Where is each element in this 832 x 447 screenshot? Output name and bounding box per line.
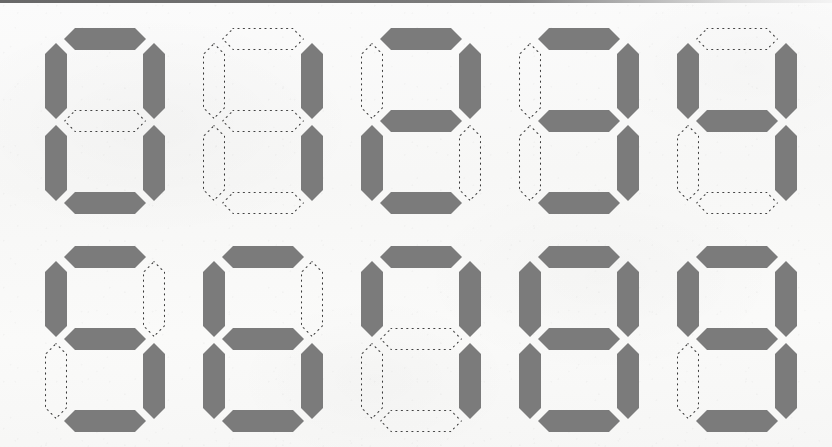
- digit-1-segment-a-off: [222, 28, 304, 50]
- digit-1-segment-g-off: [222, 110, 304, 132]
- digit-8-segment-e-on: [519, 343, 541, 419]
- digit-6-segment-d-on: [222, 410, 304, 432]
- digit-1-segment-b-on: [301, 43, 323, 119]
- digit-9-segment-a-on: [696, 246, 778, 268]
- digit-1-segment-f-off: [203, 43, 225, 119]
- digit-1-segment-e-off: [203, 125, 225, 201]
- digit-9-segment-f-on: [677, 261, 699, 337]
- digit-1-segment-d-off: [222, 192, 304, 214]
- digit-3-segment-d-on: [538, 192, 620, 214]
- digit-2-segment-c-off: [459, 125, 481, 201]
- digit-0-segment-a-on: [64, 28, 146, 50]
- digit-3-segment-e-off: [519, 125, 541, 201]
- digit-4-segment-c-on: [775, 125, 797, 201]
- digit-7-segment-b-on: [459, 261, 481, 337]
- digit-9-segment-e-off: [677, 343, 699, 419]
- digit-grid: [0, 0, 832, 447]
- digit-7: [361, 246, 481, 432]
- digit-3-segment-g-on: [538, 110, 620, 132]
- digit-9-segment-g-on: [696, 328, 778, 350]
- digit-4-segment-g-on: [696, 110, 778, 132]
- digit-5-segment-b-off: [143, 261, 165, 337]
- digit-0-segment-b-on: [143, 43, 165, 119]
- digit-8-segment-b-on: [617, 261, 639, 337]
- digit-7-segment-c-on: [459, 343, 481, 419]
- digit-1: [203, 28, 323, 214]
- digit-9-segment-b-on: [775, 261, 797, 337]
- digit-4-segment-f-on: [677, 43, 699, 119]
- digit-5-segment-f-on: [45, 261, 67, 337]
- digit-7-segment-g-off: [380, 328, 462, 350]
- digit-8-segment-g-on: [538, 328, 620, 350]
- digit-0-segment-e-on: [45, 125, 67, 201]
- digit-3-segment-a-on: [538, 28, 620, 50]
- digit-8: [519, 246, 639, 432]
- digit-6-segment-b-off: [301, 261, 323, 337]
- digit-2-segment-d-on: [380, 192, 462, 214]
- digit-9: [677, 246, 797, 432]
- digit-0-segment-d-on: [64, 192, 146, 214]
- digit-7-segment-e-off: [361, 343, 383, 419]
- digit-6-segment-a-on: [222, 246, 304, 268]
- digit-9-segment-c-on: [775, 343, 797, 419]
- digit-7-segment-f-on: [361, 261, 383, 337]
- digit-0-segment-g-off: [64, 110, 146, 132]
- digit-3-segment-c-on: [617, 125, 639, 201]
- digit-6: [203, 246, 323, 432]
- digit-6-segment-f-on: [203, 261, 225, 337]
- digit-2-segment-e-on: [361, 125, 383, 201]
- digit-5-segment-c-on: [143, 343, 165, 419]
- digit-3: [519, 28, 639, 214]
- digit-7-segment-a-on: [380, 246, 462, 268]
- digit-8-segment-f-on: [519, 261, 541, 337]
- digit-0: [45, 28, 165, 214]
- digit-7-segment-d-off: [380, 410, 462, 432]
- digit-4: [677, 28, 797, 214]
- digit-9-segment-d-on: [696, 410, 778, 432]
- digit-0-segment-f-on: [45, 43, 67, 119]
- digit-4-segment-d-off: [696, 192, 778, 214]
- digit-8-segment-d-on: [538, 410, 620, 432]
- digit-5-segment-g-on: [64, 328, 146, 350]
- digit-8-segment-c-on: [617, 343, 639, 419]
- digit-2: [361, 28, 481, 214]
- digit-2-segment-f-off: [361, 43, 383, 119]
- digit-8-segment-a-on: [538, 246, 620, 268]
- digit-3-segment-f-off: [519, 43, 541, 119]
- digit-2-segment-b-on: [459, 43, 481, 119]
- digit-5-segment-e-off: [45, 343, 67, 419]
- digit-6-segment-c-on: [301, 343, 323, 419]
- seven-segment-digit-chart: [0, 0, 832, 447]
- digit-2-segment-a-on: [380, 28, 462, 50]
- digit-3-segment-b-on: [617, 43, 639, 119]
- digit-2-segment-g-on: [380, 110, 462, 132]
- digit-4-segment-a-off: [696, 28, 778, 50]
- digit-5: [45, 246, 165, 432]
- digit-5-segment-a-on: [64, 246, 146, 268]
- digit-6-segment-e-on: [203, 343, 225, 419]
- digit-1-segment-c-on: [301, 125, 323, 201]
- digit-5-segment-d-on: [64, 410, 146, 432]
- digit-0-segment-c-on: [143, 125, 165, 201]
- digit-6-segment-g-on: [222, 328, 304, 350]
- digit-4-segment-e-off: [677, 125, 699, 201]
- digit-4-segment-b-on: [775, 43, 797, 119]
